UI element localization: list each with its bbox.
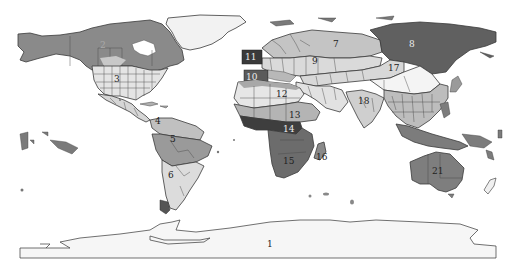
label-region-4: 4 bbox=[155, 116, 161, 126]
label-region-9: 9 bbox=[312, 56, 318, 66]
small-island bbox=[119, 99, 121, 101]
region-1-antarctica bbox=[20, 220, 496, 258]
mexico-central-america bbox=[98, 94, 150, 122]
small-island bbox=[309, 195, 312, 198]
label-region-17: 17 bbox=[388, 63, 400, 73]
small-island bbox=[21, 189, 24, 192]
small-island bbox=[233, 139, 235, 141]
indonesia-malaysia bbox=[396, 124, 468, 150]
label-region-6: 6 bbox=[168, 170, 174, 180]
label-region-1: 1 bbox=[267, 239, 273, 249]
label-region-14: 14 bbox=[283, 124, 295, 134]
label-region-16: 16 bbox=[316, 152, 328, 162]
japan bbox=[450, 76, 462, 92]
region-7-northern-europe bbox=[262, 30, 382, 58]
kamchatka bbox=[480, 52, 494, 58]
pacific-islands bbox=[20, 132, 78, 154]
small-island bbox=[217, 151, 219, 153]
arctic-islands bbox=[270, 16, 394, 26]
label-region-2: 2 bbox=[100, 40, 106, 50]
label-region-12: 12 bbox=[276, 89, 287, 99]
label-region-8: 8 bbox=[409, 39, 415, 49]
label-region-3: 3 bbox=[114, 74, 120, 84]
tasmania bbox=[448, 194, 454, 198]
label-region-11: 11 bbox=[245, 52, 256, 62]
label-region-13: 13 bbox=[289, 110, 301, 120]
new-zealand bbox=[484, 178, 496, 194]
label-region-18: 18 bbox=[358, 96, 370, 106]
label-region-10: 10 bbox=[246, 72, 258, 82]
melanesia-islands bbox=[486, 130, 502, 160]
philippines bbox=[440, 102, 450, 118]
small-island bbox=[323, 193, 329, 196]
caribbean-islands bbox=[140, 102, 168, 108]
world-map: 1 2 3 4 5 6 7 8 9 10 11 12 13 14 15 16 1… bbox=[0, 0, 516, 265]
small-island bbox=[350, 200, 354, 205]
label-region-7: 7 bbox=[333, 39, 339, 49]
region-5-amazon bbox=[152, 134, 212, 166]
label-region-15: 15 bbox=[283, 156, 295, 166]
label-region-21: 21 bbox=[432, 166, 443, 176]
label-region-5: 5 bbox=[170, 134, 176, 144]
